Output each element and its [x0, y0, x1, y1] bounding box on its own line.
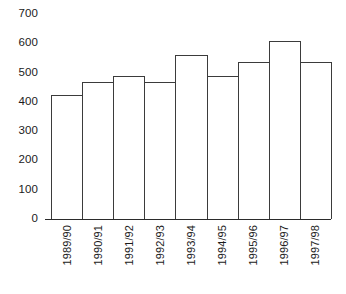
- y-axis: 0100200300400500600700: [0, 0, 44, 294]
- x-tick-label: 1996/97: [279, 225, 290, 265]
- x-tick-cell: 1994/95: [207, 221, 238, 294]
- x-tick-cell: 1989/90: [51, 221, 82, 294]
- x-tick-label: 1991/92: [123, 225, 134, 265]
- plot-area: [51, 14, 331, 219]
- y-tick-label: 0: [32, 213, 39, 225]
- x-tick-label: 1992/93: [154, 225, 165, 265]
- x-tick-cell: 1993/94: [175, 221, 206, 294]
- bar: [175, 55, 207, 219]
- x-tick-cell: 1995/96: [238, 221, 269, 294]
- bar: [300, 62, 332, 219]
- bar-chart: 0100200300400500600700 1989/901990/91199…: [0, 0, 346, 294]
- bar: [82, 82, 114, 219]
- x-tick-cell: 1992/93: [144, 221, 175, 294]
- x-tick-cell: 1991/92: [113, 221, 144, 294]
- x-tick-label: 1994/95: [217, 225, 228, 265]
- x-tick-label: 1995/96: [248, 225, 259, 265]
- y-tick-label: 400: [19, 96, 39, 108]
- y-tick-label: 600: [19, 38, 39, 50]
- x-tick-cell: 1990/91: [82, 221, 113, 294]
- bar: [113, 76, 145, 220]
- x-tick-label: 1993/94: [185, 225, 196, 265]
- bar: [144, 82, 176, 219]
- y-tick-label: 300: [19, 125, 39, 137]
- bar: [238, 62, 270, 219]
- bar-series: [51, 14, 331, 219]
- y-tick-label: 700: [19, 8, 39, 20]
- y-tick-label: 200: [19, 155, 39, 167]
- y-tick-label: 100: [19, 184, 39, 196]
- x-tick-cell: 1997/98: [300, 221, 331, 294]
- bar: [207, 76, 239, 220]
- x-tick-label: 1989/90: [61, 225, 72, 265]
- bar: [269, 41, 301, 219]
- y-tick-label: 500: [19, 67, 39, 79]
- x-tick-label: 1997/98: [310, 225, 321, 265]
- x-tick-label: 1990/91: [92, 225, 103, 265]
- x-tick-cell: 1996/97: [269, 221, 300, 294]
- bar: [51, 95, 83, 219]
- x-axis: 1989/901990/911991/921992/931993/941994/…: [51, 221, 331, 294]
- x-axis-line: [45, 219, 331, 220]
